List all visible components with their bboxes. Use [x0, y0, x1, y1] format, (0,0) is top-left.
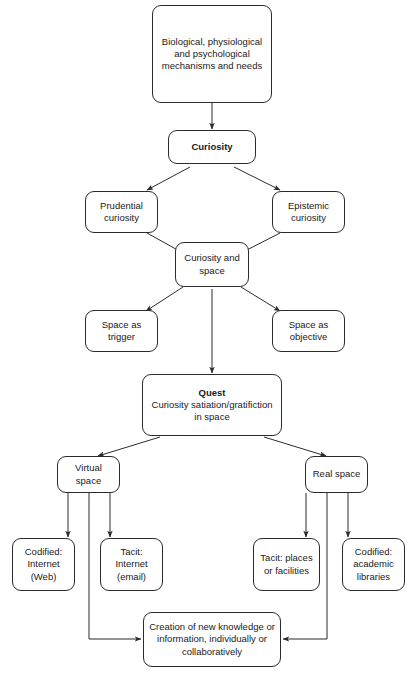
- node-virtual-space[interactable]: Virtual space: [57, 456, 120, 493]
- node-curiosity-label: Curiosity: [173, 141, 251, 153]
- node-quest[interactable]: Quest Curiosity satiation/gratifiction i…: [142, 374, 282, 436]
- node-space-as-trigger-label: Space as trigger: [90, 319, 153, 343]
- node-codified-libraries[interactable]: Codified: academic libraries: [342, 538, 405, 591]
- edge-quest-to-real: [264, 437, 326, 456]
- edge-curiosityspace-to-objective: [241, 287, 280, 311]
- node-space-as-objective-label: Space as objective: [277, 319, 340, 343]
- node-mechanisms-label: Biological, physiological and psychologi…: [157, 36, 267, 73]
- node-tacit-places-label: Tacit: places or facilities: [258, 552, 315, 576]
- node-quest-heading: Quest: [147, 387, 277, 399]
- node-codified-libraries-label: Codified: academic libraries: [347, 546, 400, 583]
- edge-curiosity-to-prudential: [147, 167, 190, 190]
- node-space-as-trigger[interactable]: Space as trigger: [85, 310, 158, 352]
- node-prudential-curiosity[interactable]: Prudential curiosity: [85, 191, 158, 233]
- edge-curiosity-to-epistemic: [234, 167, 280, 190]
- node-virtual-space-label: Virtual space: [62, 462, 115, 486]
- node-epistemic-curiosity[interactable]: Epistemic curiosity: [272, 191, 345, 233]
- edge-curiosityspace-to-trigger: [146, 287, 183, 311]
- node-real-space-label: Real space: [310, 468, 363, 480]
- node-curiosity-and-space[interactable]: Curiosity and space: [175, 242, 249, 287]
- node-quest-label: Curiosity satiation/gratifiction in spac…: [147, 399, 277, 423]
- node-tacit-internet[interactable]: Tacit: Internet (email): [100, 538, 163, 591]
- node-mechanisms[interactable]: Biological, physiological and psychologi…: [152, 5, 272, 103]
- node-curiosity[interactable]: Curiosity: [168, 130, 256, 164]
- flowchart-canvas: Biological, physiological and psychologi…: [0, 0, 416, 699]
- node-codified-internet[interactable]: Codified: Internet (Web): [12, 538, 75, 591]
- node-curiosity-and-space-label: Curiosity and space: [180, 252, 244, 276]
- node-space-as-objective[interactable]: Space as objective: [272, 310, 345, 352]
- node-creation-of-knowledge-label: Creation of new knowledge or information…: [148, 621, 276, 658]
- edge-quest-to-virtual: [98, 437, 160, 456]
- node-epistemic-curiosity-label: Epistemic curiosity: [277, 200, 340, 224]
- node-prudential-curiosity-label: Prudential curiosity: [90, 200, 153, 224]
- node-tacit-internet-label: Tacit: Internet (email): [105, 546, 158, 583]
- node-tacit-places[interactable]: Tacit: places or facilities: [253, 538, 320, 591]
- node-codified-internet-label: Codified: Internet (Web): [17, 546, 70, 583]
- node-real-space[interactable]: Real space: [305, 456, 368, 493]
- node-creation-of-knowledge[interactable]: Creation of new knowledge or information…: [143, 612, 281, 667]
- connector-layer: [0, 0, 416, 699]
